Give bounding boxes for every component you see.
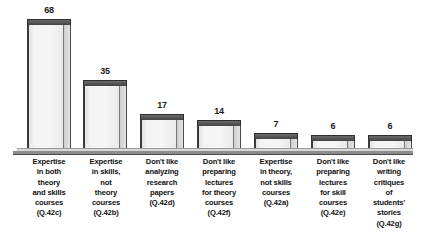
category-label-5-line-3: for skill bbox=[301, 188, 365, 198]
category-label-5-line-5: (Q.42e) bbox=[301, 208, 365, 218]
bar-side-face-1 bbox=[120, 86, 127, 152]
category-label-4-line-4: (Q.42a) bbox=[244, 198, 308, 208]
bar-value-label-2: 17 bbox=[140, 100, 184, 110]
bar-side-face-0 bbox=[64, 25, 71, 152]
category-label-2-line-0: Don't like bbox=[130, 157, 194, 167]
category-label-4-line-2: not skills bbox=[244, 178, 308, 188]
category-label-6-line-6: (Q.42g) bbox=[357, 219, 421, 229]
category-label-0-line-1: in both bbox=[17, 167, 81, 177]
bar-value-label-4: 7 bbox=[254, 119, 298, 129]
category-label-3-line-4: courses bbox=[187, 198, 251, 208]
category-label-6-line-2: critiques bbox=[357, 178, 421, 188]
category-label-3-line-2: lectures bbox=[187, 178, 251, 188]
bar-0[interactable] bbox=[27, 19, 71, 152]
category-label-0-line-2: theory bbox=[17, 178, 81, 188]
category-label-5-line-2: lectures bbox=[301, 178, 365, 188]
baseline-front-surface bbox=[13, 151, 413, 155]
category-label-5-line-4: courses bbox=[301, 198, 365, 208]
category-label-3: Don't like preparing lectures for theory… bbox=[187, 157, 251, 219]
category-label-2: Don't like analyzing research papers (Q.… bbox=[130, 157, 194, 208]
bar-group-3: 14 bbox=[197, 0, 241, 152]
category-label-6-line-4: students' bbox=[357, 198, 421, 208]
category-label-4-line-3: courses bbox=[244, 188, 308, 198]
category-label-1-line-3: theory bbox=[74, 188, 138, 198]
category-label-4-line-0: Expertise bbox=[244, 157, 308, 167]
category-label-0-line-4: courses bbox=[17, 198, 81, 208]
category-label-5-line-1: preparing bbox=[301, 167, 365, 177]
plot-area: 68 35 17 14 bbox=[0, 0, 421, 152]
category-label-3-line-5: (Q.42f) bbox=[187, 208, 251, 218]
category-label-2-line-4: (Q.42d) bbox=[130, 198, 194, 208]
bar-2[interactable] bbox=[140, 114, 184, 152]
category-label-row: Expertise in both theory and skills cour… bbox=[0, 157, 421, 250]
bar-group-2: 17 bbox=[140, 0, 184, 152]
category-label-1-line-4: courses bbox=[74, 198, 138, 208]
category-label-0-line-5: (Q.42c) bbox=[17, 208, 81, 218]
category-label-1-line-5: (Q.42b) bbox=[74, 208, 138, 218]
category-label-1: Expertise in skills, not theory courses … bbox=[74, 157, 138, 219]
bar-value-label-6: 6 bbox=[368, 121, 412, 131]
bar-group-0: 68 bbox=[27, 0, 71, 152]
category-label-6-line-3: of bbox=[357, 188, 421, 198]
category-label-6-line-5: stories bbox=[357, 208, 421, 218]
category-label-1-line-2: not bbox=[74, 178, 138, 188]
category-label-4-line-1: in theory, bbox=[244, 167, 308, 177]
bar-group-6: 6 bbox=[368, 0, 412, 152]
category-label-5: Don't like preparing lectures for skill … bbox=[301, 157, 365, 219]
category-label-6: Don't like writing critiques of students… bbox=[357, 157, 421, 229]
bar-front-face-1 bbox=[83, 86, 120, 152]
category-label-6-line-0: Don't like bbox=[357, 157, 421, 167]
category-label-2-line-2: research bbox=[130, 178, 194, 188]
category-label-0-line-3: and skills bbox=[17, 188, 81, 198]
bar-group-1: 35 bbox=[83, 0, 127, 152]
bar-1[interactable] bbox=[83, 80, 127, 152]
category-label-2-line-1: analyzing bbox=[130, 167, 194, 177]
bar-value-label-3: 14 bbox=[197, 106, 241, 116]
category-label-3-line-1: preparing bbox=[187, 167, 251, 177]
category-label-6-line-1: writing bbox=[357, 167, 421, 177]
category-label-2-line-3: papers bbox=[130, 188, 194, 198]
category-label-1-line-1: in skills, bbox=[74, 167, 138, 177]
category-label-0-line-0: Expertise bbox=[17, 157, 81, 167]
bar-value-label-1: 35 bbox=[83, 66, 127, 76]
x-axis-baseline bbox=[13, 148, 413, 155]
category-label-0: Expertise in both theory and skills cour… bbox=[17, 157, 81, 219]
bar-value-label-0: 68 bbox=[27, 5, 71, 15]
bar-group-5: 6 bbox=[311, 0, 355, 152]
bar-group-4: 7 bbox=[254, 0, 298, 152]
category-label-3-line-0: Don't like bbox=[187, 157, 251, 167]
bar-value-label-5: 6 bbox=[311, 121, 355, 131]
bar-front-face-0 bbox=[27, 25, 64, 152]
bar-chart: 68 35 17 14 bbox=[0, 0, 421, 250]
category-label-4: Expertise in theory, not skills courses … bbox=[244, 157, 308, 208]
category-label-1-line-0: Expertise bbox=[74, 157, 138, 167]
category-label-5-line-0: Don't like bbox=[301, 157, 365, 167]
category-label-3-line-3: for theory bbox=[187, 188, 251, 198]
